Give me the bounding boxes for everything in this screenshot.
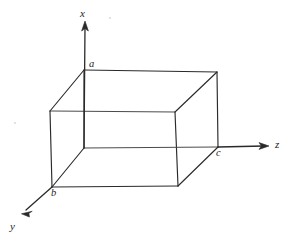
y-axis-line [26,187,52,210]
x-axis-label: x [80,8,85,19]
edge-top-right-diagonal [175,72,217,112]
coordinate-axes [22,21,270,217]
figure-canvas: x z y a c b [0,0,290,238]
edge-vertical-back-right [217,72,218,147]
edge-bottom-left-diagonal [52,148,84,187]
edge-bottom-right-diagonal [178,147,218,186]
edge-top-back [84,70,217,72]
vertex-label-b: b [51,188,56,199]
edge-top-left-diagonal [50,70,84,111]
edge-top-front [50,111,175,112]
z-axis-line [218,146,264,147]
scan-speck [14,122,16,124]
edge-bottom-back [84,147,218,148]
y-axis-arrowhead [22,211,33,217]
box-edges [50,70,218,187]
vertex-label-c: c [216,148,221,159]
edge-vertical-front-left [50,111,52,187]
box-diagram-svg [0,0,290,238]
z-axis-label: z [275,139,279,150]
y-axis-label: y [10,221,15,232]
x-axis-line [84,26,85,148]
scan-speck [109,17,111,19]
edge-vertical-front-right [175,112,178,186]
vertex-label-a: a [89,59,94,70]
edge-bottom-front [52,186,178,187]
